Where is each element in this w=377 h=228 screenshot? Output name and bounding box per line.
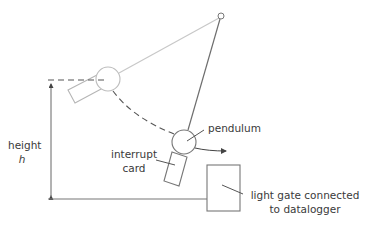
height-symbol: h (8, 152, 36, 166)
swing-path-dashed (113, 91, 174, 134)
lightgate-line2: to datalogger (249, 202, 361, 216)
pendulum-label: pendulum (208, 121, 261, 135)
pendulum-bob-raised (96, 67, 120, 91)
height-text: height (8, 138, 36, 152)
interrupt-line2: card (106, 161, 162, 175)
pendulum-bob-rest (172, 130, 196, 154)
velocity-arrow (195, 148, 226, 151)
interrupt-card-rest (164, 152, 187, 186)
lightgate-line1: light gate connected (249, 188, 361, 202)
pivot-icon (218, 13, 224, 19)
lightgate-label: light gate connected to datalogger (249, 188, 361, 216)
light-gate (207, 165, 240, 211)
height-label: height h (8, 138, 36, 166)
string-raised (119, 18, 219, 73)
interrupt-line1: interrupt (106, 147, 162, 161)
string-rest (188, 19, 220, 130)
pendulum-text: pendulum (208, 122, 261, 134)
interrupt-card-label: interrupt card (106, 147, 162, 175)
